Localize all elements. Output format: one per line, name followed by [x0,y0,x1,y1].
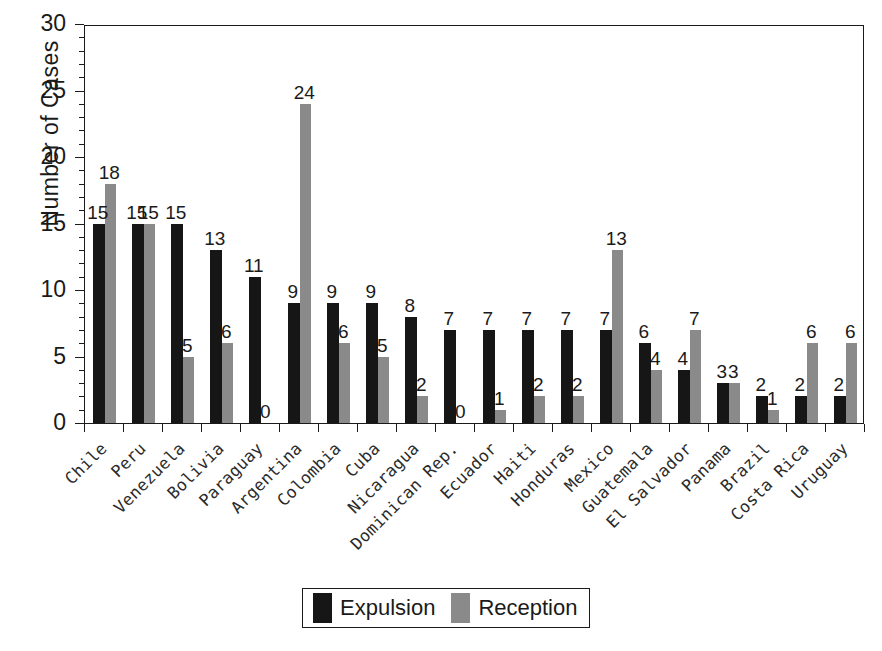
bar-value-label: 2 [824,374,854,396]
y-tick-major [75,290,84,291]
x-tick [435,424,436,432]
bar-exp [132,224,144,424]
bar-exp [717,383,729,423]
x-tick [123,424,124,432]
y-tick-major [75,24,84,25]
bar-exp [795,396,807,423]
bar-rec [222,343,234,423]
y-tick-label: 30 [8,10,66,37]
bar-value-label: 7 [551,308,581,330]
bar-value-label: 18 [94,162,124,184]
x-tick [240,424,241,432]
bar-value-label: 5 [367,335,397,357]
x-tick [786,424,787,432]
bar-value-label: 8 [395,295,425,317]
bar-rec [534,396,546,423]
bar-value-label: 7 [679,308,709,330]
bar-rec [183,357,195,424]
legend-entry: Reception [441,589,583,627]
bar-value-label: 2 [785,374,815,396]
y-tick-label: 25 [8,77,66,104]
bar-value-label: 6 [211,321,241,343]
bar-exp [93,224,105,424]
bar-rec [768,410,780,423]
x-tick [630,424,631,432]
x-tick [318,424,319,432]
bar-rec [417,396,429,423]
bar-value-label: 3 [718,361,748,383]
bar-exp [288,303,300,423]
bar-value-label: 7 [590,308,620,330]
x-tick [357,424,358,432]
bar-value-label: 13 [601,228,631,250]
chart-page: Number of Cases 051015202530 15181515155… [0,0,882,651]
y-tick-label: 20 [8,143,66,170]
bar-rec [495,410,507,423]
bar-value-label: 0 [250,401,280,423]
x-tick [552,424,553,432]
bar-value-label: 9 [317,281,347,303]
y-tick-major [75,157,84,158]
bar-value-label: 6 [629,321,659,343]
bar-value-label: 1 [757,388,787,410]
bar-rec [339,343,351,423]
bar-rec [300,104,312,423]
y-tick-label: 15 [8,210,66,237]
y-tick-major [75,423,84,424]
x-tick [669,424,670,432]
bar-value-label: 1 [484,388,514,410]
bar-value-label: 7 [473,308,503,330]
bar-value-label: 9 [278,281,308,303]
bar-rec [690,330,702,423]
y-tick-label: 5 [8,343,66,370]
bar-value-label: 9 [356,281,386,303]
y-tick-label: 0 [8,409,66,436]
bar-value-label: 5 [172,335,202,357]
legend-label: Expulsion [340,595,441,621]
bar-value-label: 2 [523,374,553,396]
bar-value-label: 6 [796,321,826,343]
bar-rec [612,250,624,423]
y-tick-major [75,357,84,358]
x-tick [513,424,514,432]
legend-swatch [313,593,332,623]
bar-value-label: 13 [200,228,230,250]
bar-exp [600,330,612,423]
bar-value-label: 2 [562,374,592,396]
legend-swatch [451,593,470,623]
legend: ExpulsionReception [302,588,590,628]
legend-label: Reception [478,595,583,621]
bar-value-label: 7 [512,308,542,330]
bar-rec [651,370,663,423]
x-tick [396,424,397,432]
bar-exp [678,370,690,423]
bar-value-label: 11 [239,255,269,277]
bar-value-label: 15 [133,202,163,224]
bar-rec [729,383,741,423]
bar-value-label: 15 [83,202,113,224]
bar-value-label: 2 [406,374,436,396]
bar-value-label: 15 [161,202,191,224]
x-tick [825,424,826,432]
x-tick [747,424,748,432]
bar-rec [144,224,156,424]
bar-value-label: 0 [445,401,475,423]
x-tick [201,424,202,432]
bar-value-label: 4 [640,348,670,370]
bar-value-label: 4 [668,348,698,370]
bar-exp [405,317,417,423]
legend-entry: Expulsion [303,589,441,627]
y-tick-major [75,91,84,92]
bar-exp [171,224,183,424]
y-tick-major [75,224,84,225]
x-tick [84,424,85,432]
bar-exp [834,396,846,423]
bar-value-label: 7 [434,308,464,330]
bar-rec [378,357,390,424]
x-tick [474,424,475,432]
x-tick [864,424,865,432]
y-tick-label: 10 [8,276,66,303]
bar-rec [573,396,585,423]
bar-exp [366,303,378,423]
x-tick [591,424,592,432]
